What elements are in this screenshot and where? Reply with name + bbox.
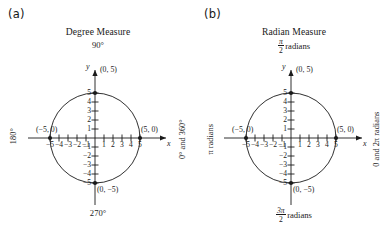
panel-b-y-tick--4: −4 bbox=[273, 169, 287, 178]
panel-b-y-tick-3: 3 bbox=[276, 106, 287, 115]
panel-a-y-axis-name: y bbox=[86, 62, 90, 71]
panel-a-point-label-bottom: (0, −5) bbox=[97, 185, 118, 194]
panel-a-y-tick-3: 3 bbox=[80, 106, 91, 115]
panel-b-svg bbox=[196, 0, 392, 239]
panel-b-y-axis-name: y bbox=[282, 62, 286, 71]
panel-a-y-tick--2: −2 bbox=[77, 151, 91, 160]
panel-b-y-tick--2: −2 bbox=[273, 151, 287, 160]
panel-b-y-tick-1: 1 bbox=[276, 124, 287, 133]
panel-a-point-label-top: (0, 5) bbox=[100, 65, 117, 74]
panel-a-y-tick--3: −3 bbox=[77, 160, 91, 169]
panel-a-x-tick-5: 5 bbox=[135, 140, 145, 149]
panel-a-y-tick--1: −1 bbox=[77, 142, 91, 151]
x-axis-arrow bbox=[356, 135, 362, 140]
x-axis-arrow bbox=[160, 135, 166, 140]
panel-a-y-tick--4: −4 bbox=[77, 169, 91, 178]
panel-b-x-tick-5: 5 bbox=[331, 140, 341, 149]
y-axis-arrow bbox=[288, 70, 293, 76]
panel-a-y-tick-2: 2 bbox=[80, 115, 91, 124]
panel-a-x-axis-name: x bbox=[167, 139, 171, 148]
y-axis-arrow bbox=[92, 70, 97, 76]
panel-b-x-axis-name: x bbox=[363, 139, 367, 148]
panel-a-y-tick--5: −5 bbox=[77, 178, 91, 187]
figure-panel-b: (b) Radian Measure π 2 radians 3π 2 radi… bbox=[196, 0, 392, 239]
panel-b-y-tick--3: −3 bbox=[273, 160, 287, 169]
panel-b-y-tick--5: −5 bbox=[273, 178, 287, 187]
panel-b-point-label-right: (5, 0) bbox=[337, 125, 354, 134]
figure-panel-a: (a) Degree Measure 90° 270° 180° 0° and … bbox=[0, 0, 196, 239]
panel-b-point-label-left: (−5, 0) bbox=[232, 125, 253, 134]
panel-b-y-tick-5: 5 bbox=[276, 88, 287, 97]
panel-a-svg bbox=[0, 0, 196, 239]
panel-b-y-tick-2: 2 bbox=[276, 115, 287, 124]
panel-b-point-label-bottom: (0, −5) bbox=[293, 185, 314, 194]
panel-a-point-label-left: (−5, 0) bbox=[36, 125, 57, 134]
panel-b-y-tick--1: −1 bbox=[273, 142, 287, 151]
panel-a-y-tick-4: 4 bbox=[80, 97, 91, 106]
point-top bbox=[93, 91, 97, 95]
panel-b-plot bbox=[196, 0, 392, 239]
panel-a-y-tick-1: 1 bbox=[80, 124, 91, 133]
point-top bbox=[289, 91, 293, 95]
panel-a-point-label-right: (5, 0) bbox=[141, 125, 158, 134]
panel-b-point-label-top: (0, 5) bbox=[296, 65, 313, 74]
panel-a-plot bbox=[0, 0, 196, 239]
panel-b-y-tick-4: 4 bbox=[276, 97, 287, 106]
panel-a-y-tick-5: 5 bbox=[80, 88, 91, 97]
